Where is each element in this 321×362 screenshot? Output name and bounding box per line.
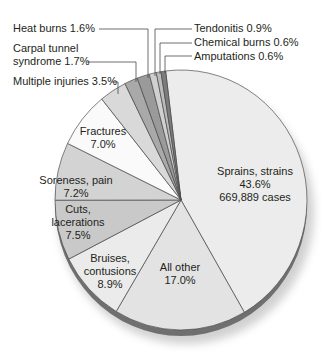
label-all-other-pct: 17.0% — [160, 274, 200, 287]
label-bruises-name1: Bruises, — [84, 252, 137, 265]
label-fractures-pct: 7.0% — [80, 138, 126, 151]
label-cuts-name2: lacerations — [51, 216, 104, 229]
label-carpal-name1: Carpal tunnel — [13, 42, 89, 55]
label-heat-burns: Heat burns 1.6% — [13, 22, 95, 35]
label-sprains: Sprains, strains 43.6% 669,889 cases — [217, 165, 293, 204]
label-bruises-pct: 8.9% — [84, 278, 137, 291]
label-soreness-pct: 7.2% — [39, 187, 112, 200]
label-sprains-name: Sprains, strains — [217, 165, 293, 178]
label-bruises: Bruises, contusions 8.9% — [84, 252, 137, 291]
label-soreness: Soreness, pain 7.2% — [39, 174, 112, 200]
label-cuts-name1: Cuts, — [51, 203, 104, 216]
label-carpal-tunnel: Carpal tunnel syndrome 1.7% — [13, 42, 89, 68]
leader-heat-burns — [99, 29, 148, 78]
label-sprains-pct: 43.6% — [217, 178, 293, 191]
label-all-other-name: All other — [160, 261, 200, 274]
label-cuts: Cuts, lacerations 7.5% — [51, 203, 104, 242]
label-chemical-burns: Chemical burns 0.6% — [194, 36, 299, 49]
label-all-other: All other 17.0% — [160, 261, 200, 287]
label-multiple-injuries: Multiple injuries 3.5% — [13, 75, 117, 88]
label-tendonitis: Tendonitis 0.9% — [194, 22, 272, 35]
label-sprains-cases: 669,889 cases — [217, 191, 293, 204]
label-fractures: Fractures 7.0% — [80, 125, 126, 151]
label-bruises-name2: contusions — [84, 265, 137, 278]
label-cuts-pct: 7.5% — [51, 229, 104, 242]
label-amputations: Amputations 0.6% — [194, 50, 283, 63]
leader-tendonitis — [155, 29, 192, 76]
label-soreness-name: Soreness, pain — [39, 174, 112, 187]
label-fractures-name: Fractures — [80, 125, 126, 138]
label-carpal-name2: syndrome 1.7% — [13, 55, 89, 68]
